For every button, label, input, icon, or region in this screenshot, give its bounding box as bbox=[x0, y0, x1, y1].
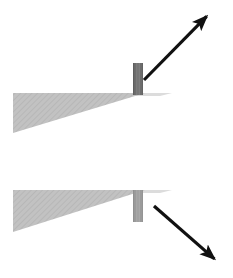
block-on-ramp bbox=[133, 190, 143, 222]
figure-canvas bbox=[0, 0, 233, 278]
block-on-ramp bbox=[133, 63, 143, 95]
block-left-edge bbox=[133, 63, 135, 95]
figure-background bbox=[0, 0, 233, 278]
block-right-edge bbox=[141, 190, 143, 222]
block-right-edge bbox=[141, 63, 143, 95]
block-left-edge bbox=[133, 190, 135, 222]
diagram-svg bbox=[0, 0, 233, 278]
